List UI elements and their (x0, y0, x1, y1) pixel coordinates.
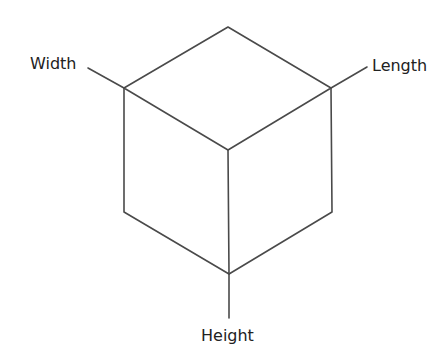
cube-top-face (124, 27, 331, 150)
height-label: Height (201, 328, 254, 344)
length-leader-line (331, 67, 367, 88)
cube-right-face (229, 88, 332, 274)
length-label: Length (372, 58, 427, 74)
width-label: Width (30, 56, 76, 72)
cube-left-face (124, 88, 229, 274)
width-leader-line (88, 68, 124, 88)
